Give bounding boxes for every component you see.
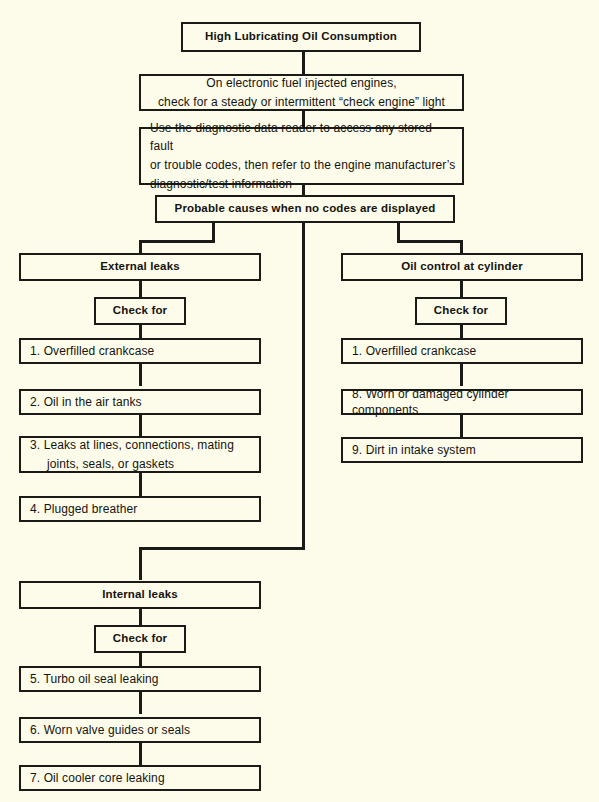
connector-center-horizontal-to-internal [139, 547, 305, 550]
node-external-check-for: Check for [94, 297, 186, 325]
node-reader-line-3: diagnostic/test information [150, 177, 292, 191]
connector-right-down-to-cylinder [460, 240, 463, 254]
external-check-for-label: Check for [96, 303, 184, 319]
connector-causes-right-horizontal [397, 240, 463, 243]
oil-control-label: Oil control at cylinder [343, 259, 581, 275]
node-root-high-lubricating-oil-consumption: High Lubricating Oil Consumption [181, 22, 421, 52]
node-cylinder-item-9: 9. Dirt in intake system [341, 437, 583, 463]
external-leaks-label: External leaks [21, 259, 259, 275]
node-probable-causes: Probable causes when no codes are displa… [155, 195, 455, 223]
node-internal-item-6: 6. Worn valve guides or seals [19, 717, 261, 743]
node-internal-check-for: Check for [94, 625, 186, 653]
connector-external-item3-to-item4 [139, 472, 142, 496]
node-root-label: High Lubricating Oil Consumption [183, 29, 419, 45]
cylinder-item-1-label: 1. Overfilled crankcase [352, 343, 575, 359]
internal-item-5-label: 5. Turbo oil seal leaking [30, 671, 253, 687]
node-external-item-1: 1. Overfilled crankcase [19, 338, 261, 364]
node-probable-causes-label: Probable causes when no codes are displa… [157, 201, 453, 217]
cylinder-item-9-label: 9. Dirt in intake system [352, 442, 575, 458]
connector-causes-center-trunk [302, 222, 305, 550]
internal-item-6-label: 6. Worn valve guides or seals [30, 722, 253, 738]
node-internal-item-5: 5. Turbo oil seal leaking [19, 666, 261, 692]
node-efi-text: On electronic fuel injected engines, che… [141, 74, 462, 111]
connector-down-to-internal [139, 547, 142, 580]
node-external-item-4: 4. Plugged breather [19, 496, 261, 522]
internal-leaks-label: Internal leaks [21, 587, 259, 603]
node-efi-check-engine-light: On electronic fuel injected engines, che… [139, 74, 464, 111]
connector-internal-to-checkfor [139, 608, 142, 626]
node-efi-line-1: On electronic fuel injected engines, [206, 76, 396, 90]
connector-external-item2-to-item3 [139, 414, 142, 436]
cylinder-item-8-label: 8. Worn or damaged cylinder components [352, 386, 575, 418]
connector-causes-right-stub [397, 222, 400, 242]
node-oil-control-at-cylinder-heading: Oil control at cylinder [341, 253, 583, 281]
connector-internal-checkfor-to-item5 [139, 652, 142, 667]
node-external-leaks-heading: External leaks [19, 253, 261, 281]
node-external-item-3: 3. Leaks at lines, connections, mating j… [19, 436, 261, 473]
connector-cylinder-checkfor-to-item1 [460, 324, 463, 339]
flowchart-canvas: High Lubricating Oil Consumption On elec… [0, 0, 599, 802]
external-item-3-label: 3. Leaks at lines, connections, mating j… [30, 436, 253, 473]
node-internal-leaks-heading: Internal leaks [19, 581, 261, 609]
node-internal-item-7: 7. Oil cooler core leaking [19, 765, 261, 791]
connector-cylinder-to-checkfor [460, 280, 463, 298]
internal-item-7-label: 7. Oil cooler core leaking [30, 770, 253, 786]
connector-internal-item6-to-item7 [139, 742, 142, 765]
node-diagnostic-data-reader: Use the diagnostic data reader to access… [139, 127, 464, 185]
node-reader-text: Use the diagnostic data reader to access… [150, 119, 456, 193]
node-efi-line-2: check for a steady or intermittent “chec… [158, 95, 445, 109]
node-cylinder-item-8: 8. Worn or damaged cylinder components [341, 389, 583, 415]
connector-causes-left-horizontal [139, 240, 215, 243]
node-cylinder-item-1: 1. Overfilled crankcase [341, 338, 583, 364]
connector-cylinder-item1-to-item2 [460, 363, 463, 386]
node-reader-line-2: or trouble codes, then refer to the engi… [150, 158, 455, 172]
external-item-2-label: 2. Oil in the air tanks [30, 394, 253, 410]
connector-root-to-efi [302, 51, 305, 74]
node-reader-line-1: Use the diagnostic data reader to access… [150, 121, 432, 154]
node-external-item-2: 2. Oil in the air tanks [19, 389, 261, 415]
external-item-4-label: 4. Plugged breather [30, 501, 253, 517]
connector-causes-left-stub [212, 222, 215, 242]
connector-internal-item5-to-item6 [139, 691, 142, 714]
external-item-1-label: 1. Overfilled crankcase [30, 343, 253, 359]
external-item-3-line-1: 3. Leaks at lines, connections, mating [30, 436, 234, 455]
internal-check-for-label: Check for [96, 631, 184, 647]
node-cylinder-check-for: Check for [415, 297, 507, 325]
connector-external-to-checkfor [139, 280, 142, 298]
cylinder-check-for-label: Check for [417, 303, 505, 319]
connector-left-down-to-external [139, 240, 142, 254]
external-item-3-line-2: joints, seals, or gaskets [30, 455, 174, 474]
connector-external-item1-to-item2 [139, 363, 142, 386]
connector-external-checkfor-to-item1 [139, 324, 142, 339]
